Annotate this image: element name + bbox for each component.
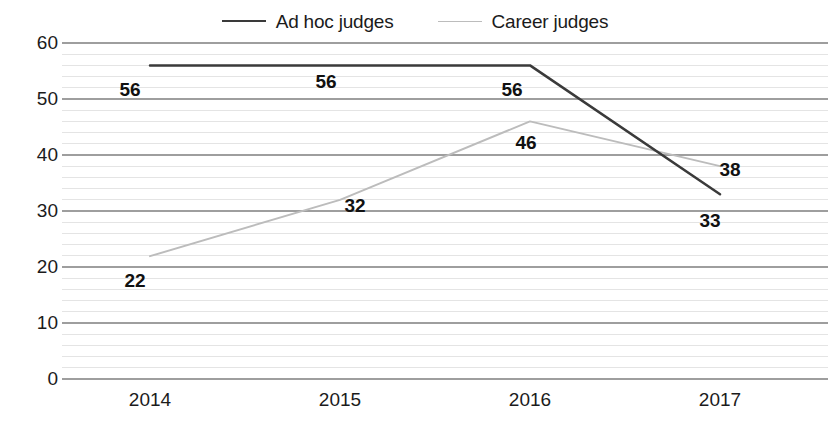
x-tick-2017: 2017	[675, 390, 765, 409]
data-label-career-2015: 32	[325, 196, 385, 215]
data-label-ad-hoc-2014: 56	[100, 80, 160, 99]
data-label-ad-hoc-2015: 56	[296, 72, 356, 91]
data-label-ad-hoc-2016: 56	[482, 80, 542, 99]
line-chart: Ad hoc judges Career judges	[0, 0, 830, 424]
data-label-career-2016: 46	[496, 133, 556, 152]
data-label-career-2014: 22	[105, 271, 165, 290]
x-tick-2014: 2014	[105, 390, 195, 409]
x-tick-2016: 2016	[485, 390, 575, 409]
plot-area: 60 50 40 30 20 10 0 2014 2015 2016 2017 …	[0, 0, 830, 424]
data-label-career-2017: 38	[700, 160, 760, 179]
data-label-ad-hoc-2017: 33	[680, 211, 740, 230]
x-tick-2015: 2015	[295, 390, 385, 409]
